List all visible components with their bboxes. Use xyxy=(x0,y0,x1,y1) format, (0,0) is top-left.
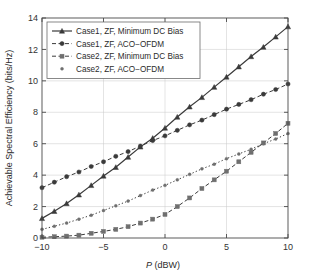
data-point xyxy=(200,118,204,122)
legend-label-3: Case2, ZF, ACO−OFDM xyxy=(76,65,164,74)
data-point xyxy=(274,138,277,141)
data-point xyxy=(188,123,192,127)
y-tick-label: 10 xyxy=(28,76,38,86)
data-point xyxy=(52,209,57,214)
data-point xyxy=(52,180,56,184)
legend-marker-2 xyxy=(60,54,64,58)
data-point xyxy=(77,170,81,174)
data-point xyxy=(65,222,68,225)
data-point xyxy=(126,149,130,153)
data-point xyxy=(65,175,69,179)
data-point xyxy=(176,178,179,181)
data-point xyxy=(151,138,155,142)
data-point xyxy=(102,209,105,212)
data-point xyxy=(102,229,106,233)
y-axis-title: Achievable Spectral Efficiency (bits/Hz) xyxy=(4,50,14,206)
data-point xyxy=(139,194,142,197)
legend-marker-3 xyxy=(61,67,64,70)
x-tick-label: 5 xyxy=(224,242,229,252)
data-point xyxy=(274,87,278,91)
data-point xyxy=(101,160,105,164)
data-point xyxy=(212,178,216,182)
data-point xyxy=(175,205,179,209)
legend-marker-1 xyxy=(60,42,64,46)
data-point xyxy=(224,107,228,111)
data-point xyxy=(151,217,155,221)
data-point xyxy=(249,98,253,102)
data-point xyxy=(77,218,80,221)
data-point xyxy=(163,212,167,216)
data-point xyxy=(126,225,130,229)
data-point xyxy=(90,214,93,217)
legend-label-1: Case1, ZF, ACO−OFDM xyxy=(76,40,164,49)
data-point xyxy=(151,189,154,192)
data-point xyxy=(262,142,265,145)
data-point xyxy=(163,134,167,138)
data-point xyxy=(225,157,228,160)
data-point xyxy=(213,163,216,166)
data-point xyxy=(188,173,191,176)
y-tick-label: 0 xyxy=(33,233,38,243)
chart-canvas: −10−5051002468101214 Case1, ZF, Minimum … xyxy=(0,0,315,277)
x-tick-label: 10 xyxy=(283,242,293,252)
data-point xyxy=(89,164,93,168)
data-point xyxy=(261,92,265,96)
data-point xyxy=(89,231,93,235)
data-point xyxy=(237,102,241,106)
data-point xyxy=(250,148,253,151)
y-tick-label: 12 xyxy=(28,45,38,55)
data-point xyxy=(175,128,179,132)
chart-figure: −10−5051002468101214 Case1, ZF, Minimum … xyxy=(0,0,315,277)
data-point xyxy=(77,233,81,237)
x-axis-title: P (dBW) xyxy=(146,260,180,270)
y-tick-label: 14 xyxy=(28,13,38,23)
chart-legend: Case1, ZF, Minimum DC BiasCase1, ZF, ACO… xyxy=(47,22,200,78)
legend-label-2: Case2, ZF, Minimum DC Bias xyxy=(76,52,183,61)
data-point xyxy=(212,113,216,117)
x-tick-label: 0 xyxy=(162,242,167,252)
data-point xyxy=(114,227,118,231)
data-point xyxy=(225,169,229,173)
x-tick-label: −10 xyxy=(34,242,49,252)
y-tick-label: 6 xyxy=(33,139,38,149)
data-point xyxy=(114,154,118,158)
y-tick-label: 8 xyxy=(33,107,38,117)
data-point xyxy=(138,221,142,225)
legend-label-0: Case1, ZF, Minimum DC Bias xyxy=(76,27,183,36)
data-point xyxy=(164,184,167,187)
data-point xyxy=(65,234,69,238)
data-point xyxy=(138,144,142,148)
data-point xyxy=(127,200,130,203)
data-point xyxy=(200,167,203,170)
x-tick-label: −5 xyxy=(98,242,108,252)
data-point xyxy=(237,160,241,164)
y-tick-label: 4 xyxy=(33,170,38,180)
y-tick-label: 2 xyxy=(33,202,38,212)
data-point xyxy=(249,150,253,154)
data-point xyxy=(237,152,240,155)
data-point xyxy=(200,187,204,191)
data-point xyxy=(114,204,117,207)
data-point xyxy=(188,196,192,200)
data-point xyxy=(53,225,56,228)
data-point xyxy=(274,132,278,136)
